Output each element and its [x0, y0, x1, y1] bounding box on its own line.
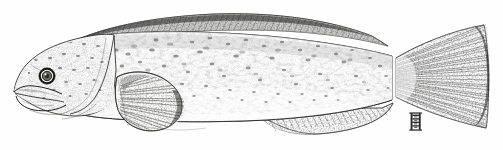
eye-highlight [44, 73, 46, 75]
fish-illustration-svg: H [0, 0, 503, 150]
illustration-plate: H [0, 0, 503, 150]
artist-monogram: H [409, 109, 423, 131]
eye [39, 68, 55, 84]
nostril [28, 72, 30, 74]
